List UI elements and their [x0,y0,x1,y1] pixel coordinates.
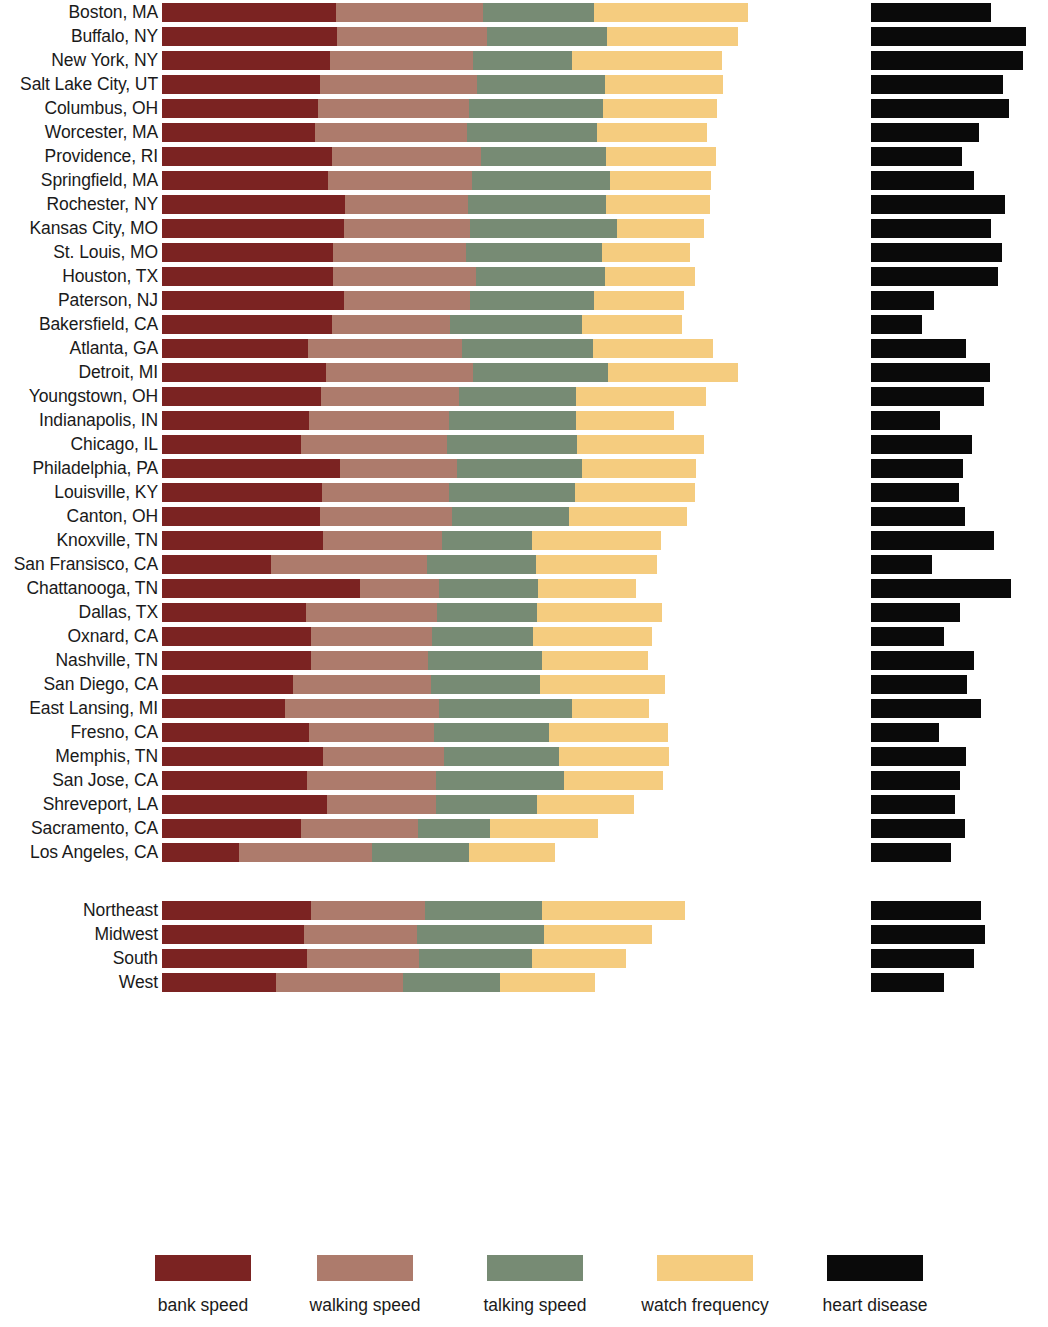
row-label: San Fransisco, CA [14,552,158,576]
bar-segment-talking [476,267,605,286]
bar-segment-walking [328,171,472,190]
stacked-bar [162,195,710,214]
heart-disease-bar [871,147,962,166]
row-label: Chattanooga, TN [27,576,158,600]
bar-segment-walking [320,507,452,526]
heart-disease-bar [871,699,981,718]
bar-segment-watch [605,75,723,94]
heart-disease-bar [871,603,960,622]
bar-segment-watch [602,243,690,262]
bar-segment-walking [320,75,476,94]
bar-segment-bank [162,435,301,454]
stacked-bar [162,723,668,742]
bar-segment-walking [344,219,470,238]
bar-segment-walking [336,3,483,22]
row-label: Buffalo, NY [71,24,158,48]
bar-segment-walking [271,555,427,574]
bar-segment-walking [311,651,429,670]
bar-segment-bank [162,651,311,670]
bar-segment-walking [307,771,437,790]
chart-row-city-30: Fresno, CA [0,720,1048,744]
bar-segment-bank [162,195,345,214]
bar-segment-bank [162,973,276,992]
bar-segment-bank [162,819,301,838]
bar-segment-bank [162,459,340,478]
bar-segment-walking [311,901,426,920]
row-label: Atlanta, GA [70,336,158,360]
bar-segment-walking [315,123,466,142]
bar-segment-talking [432,627,533,646]
chart-row-city-35: Los Angeles, CA [0,840,1048,864]
stacked-bar [162,363,738,382]
legend-item-talking[interactable]: talking speed [440,1255,630,1316]
bar-segment-walking [344,291,470,310]
row-label: San Jose, CA [52,768,158,792]
heart-disease-bar [871,651,974,670]
bar-segment-talking [436,771,564,790]
bar-segment-talking [483,3,594,22]
chart-row-city-26: Oxnard, CA [0,624,1048,648]
chart-rows-area: Boston, MABuffalo, NYNew York, NYSalt La… [0,0,1048,994]
heart-disease-bar [871,843,951,862]
bar-segment-watch [576,387,707,406]
chart-row-city-3: Salt Lake City, UT [0,72,1048,96]
legend-swatch-bank-icon [155,1255,251,1281]
bar-segment-walking [326,363,473,382]
legend-label: talking speed [440,1295,630,1316]
heart-disease-bar [871,291,934,310]
stacked-bar [162,483,695,502]
heart-disease-bar [871,819,965,838]
bar-segment-talking [473,51,572,70]
heart-disease-bar [871,483,959,502]
heart-disease-bar [871,123,979,142]
chart-row-city-11: Houston, TX [0,264,1048,288]
bar-segment-walking [308,339,462,358]
row-label: Paterson, NJ [58,288,158,312]
row-label: Columbus, OH [44,96,158,120]
stacked-bar [162,219,704,238]
stacked-bar [162,147,716,166]
bar-segment-talking [439,579,538,598]
chart-row-city-7: Springfield, MA [0,168,1048,192]
bar-segment-watch [549,723,668,742]
heart-disease-bar [871,51,1023,70]
legend-item-walking[interactable]: walking speed [270,1255,460,1316]
bar-segment-bank [162,675,293,694]
bar-segment-bank [162,699,285,718]
bar-segment-bank [162,51,330,70]
heart-disease-bar [871,627,944,646]
legend-swatch-walking-icon [317,1255,413,1281]
stacked-bar [162,27,738,46]
stacked-bar [162,651,648,670]
bar-segment-walking [345,195,468,214]
bar-segment-walking [309,411,450,430]
bar-segment-talking [472,171,611,190]
legend-label: walking speed [270,1295,460,1316]
bar-segment-watch [490,819,598,838]
bar-segment-bank [162,555,271,574]
stacked-bar [162,339,713,358]
legend-item-watch[interactable]: watch frequency [610,1255,800,1316]
chart-row-city-28: San Diego, CA [0,672,1048,696]
chart-row-city-27: Nashville, TN [0,648,1048,672]
row-label: Los Angeles, CA [30,840,158,864]
stacked-bar [162,171,711,190]
heart-disease-bar [871,99,1009,118]
bar-segment-walking [340,459,457,478]
bar-segment-talking [431,675,540,694]
chart-row-city-19: Philadelphia, PA [0,456,1048,480]
heart-disease-bar [871,901,981,920]
chart-row-city-16: Youngstown, OH [0,384,1048,408]
bar-segment-talking [466,243,602,262]
bar-segment-bank [162,363,326,382]
row-label: Oxnard, CA [68,624,158,648]
row-label: Kansas City, MO [30,216,159,240]
row-label: Memphis, TN [55,744,158,768]
chart-row-city-18: Chicago, IL [0,432,1048,456]
chart-row-city-22: Knoxville, TN [0,528,1048,552]
legend-item-heart[interactable]: heart disease [780,1255,970,1316]
heart-disease-bar [871,27,1026,46]
bar-segment-walking [293,675,432,694]
bar-segment-bank [162,747,323,766]
bar-segment-walking [301,819,419,838]
